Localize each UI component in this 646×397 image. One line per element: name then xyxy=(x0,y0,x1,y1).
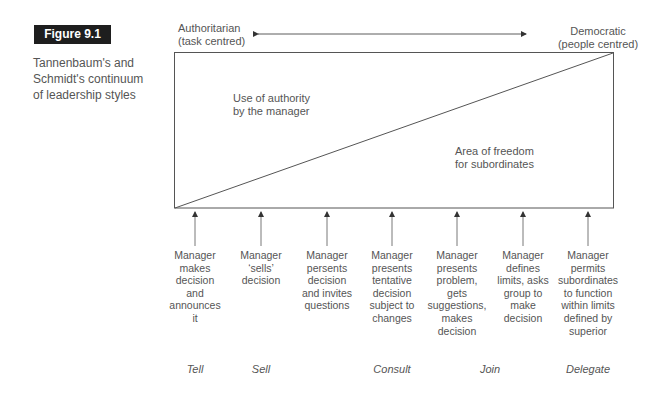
line: Manager xyxy=(162,249,228,262)
style-label-consult: Consult xyxy=(357,363,427,375)
line: tentative xyxy=(359,274,425,287)
freedom-line1: Area of freedom xyxy=(455,145,534,158)
line: decision xyxy=(490,312,556,325)
style-label-delegate: Delegate xyxy=(553,363,623,375)
line: changes xyxy=(359,312,425,325)
line: makes xyxy=(162,262,228,275)
line: Manager xyxy=(228,249,294,262)
continuum-diagram xyxy=(0,0,646,397)
style-label-join: Join xyxy=(455,363,525,375)
line: persents xyxy=(294,262,360,275)
line: decision xyxy=(162,274,228,287)
behaviour-delegate-description: Manager permits subordinates to function… xyxy=(552,249,624,337)
authority-line1: Use of authority xyxy=(233,92,310,105)
line: superior xyxy=(552,325,624,338)
line: gets xyxy=(424,287,490,300)
style-label-tell: Tell xyxy=(160,363,230,375)
freedom-region-label: Area of freedom for subordinates xyxy=(455,145,534,171)
line: and xyxy=(162,287,228,300)
line: and invites xyxy=(294,287,360,300)
line: Manager xyxy=(424,249,490,262)
line: decision xyxy=(228,274,294,287)
line: announces xyxy=(162,299,228,312)
line: it xyxy=(162,312,228,325)
line: to function xyxy=(552,287,624,300)
line: makes xyxy=(424,312,490,325)
line: questions xyxy=(294,299,360,312)
behaviour-tell-description: Manager makes decision and announces it xyxy=(162,249,228,325)
line: limits, asks xyxy=(490,274,556,287)
line: Manager xyxy=(294,249,360,262)
line: Manager xyxy=(359,249,425,262)
line: defined by xyxy=(552,312,624,325)
authority-region-label: Use of authority by the manager xyxy=(233,92,310,118)
line: permits xyxy=(552,262,624,275)
behaviour-sell-description: Manager ‘sells’ decision xyxy=(228,249,294,287)
line: presents xyxy=(359,262,425,275)
line: defines xyxy=(490,262,556,275)
line: make xyxy=(490,299,556,312)
line: suggestions, xyxy=(424,299,490,312)
line: group to xyxy=(490,287,556,300)
behaviour-invite-questions-description: Manager persents decision and invites qu… xyxy=(294,249,360,312)
line: Manager xyxy=(490,249,556,262)
line: Manager xyxy=(552,249,624,262)
line: within limits xyxy=(552,299,624,312)
line: presents xyxy=(424,262,490,275)
behaviour-suggestions-description: Manager presents problem, gets suggestio… xyxy=(424,249,490,337)
line: subordinates xyxy=(552,274,624,287)
freedom-line2: for subordinates xyxy=(455,158,534,171)
authority-line2: by the manager xyxy=(233,105,310,118)
authority-freedom-diagonal xyxy=(175,53,613,208)
line: ‘sells’ xyxy=(228,262,294,275)
behaviour-arrows xyxy=(195,212,588,246)
behaviour-consult-description: Manager presents tentative decision subj… xyxy=(359,249,425,325)
behaviour-join-description: Manager defines limits, asks group to ma… xyxy=(490,249,556,325)
line: decision xyxy=(359,287,425,300)
line: problem, xyxy=(424,274,490,287)
line: decision xyxy=(424,325,490,338)
style-label-sell: Sell xyxy=(226,363,296,375)
line: decision xyxy=(294,274,360,287)
line: subject to xyxy=(359,299,425,312)
